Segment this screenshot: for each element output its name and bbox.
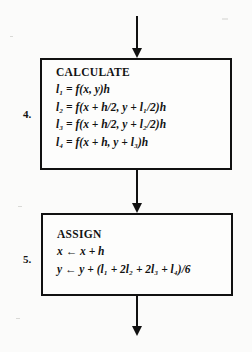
scan-speck: [10, 36, 13, 37]
arrow-shaft: [136, 16, 138, 50]
scan-speck: [16, 318, 20, 319]
equation-assign-x: x ← x + h: [57, 243, 227, 261]
assign-title: ASSIGN: [57, 226, 227, 243]
arrow-head: [132, 326, 142, 336]
equation-l3: l₃ = f(x + h/2, y + l₂/2)h: [56, 116, 226, 134]
assign-box: ASSIGN x ← x + h y ← y + (l₁ + 2l₂ + 2l₃…: [41, 213, 233, 296]
arrow-head: [132, 203, 142, 213]
calculate-box: CALCULATE l₁ = f(x, y)h l₂ = f(x + h/2, …: [40, 58, 232, 170]
scan-speck: [18, 206, 22, 207]
calculate-box-content: CALCULATE l₁ = f(x, y)h l₂ = f(x + h/2, …: [56, 64, 226, 151]
equation-assign-y: y ← y + (l₁ + 2l₂ + 2l₃ + l₄)/6: [57, 261, 227, 279]
calculate-title: CALCULATE: [56, 64, 226, 81]
arrow-shaft: [136, 296, 138, 328]
flowchart-diagram: 4. CALCULATE l₁ = f(x, y)h l₂ = f(x + h/…: [0, 0, 252, 352]
step-number-5: 5.: [23, 253, 31, 265]
arrow-head: [132, 48, 142, 58]
assign-box-content: ASSIGN x ← x + h y ← y + (l₁ + 2l₂ + 2l₃…: [57, 226, 227, 278]
step-number-4: 4.: [23, 108, 31, 120]
arrow-shaft: [136, 170, 138, 205]
equation-l2: l₂ = f(x + h/2, y + l₁/2)h: [56, 99, 226, 117]
scan-speck: [222, 18, 228, 20]
equation-l4: l₄ = f(x + h, y + l₃)h: [56, 134, 226, 152]
equation-l1: l₁ = f(x, y)h: [56, 81, 226, 99]
